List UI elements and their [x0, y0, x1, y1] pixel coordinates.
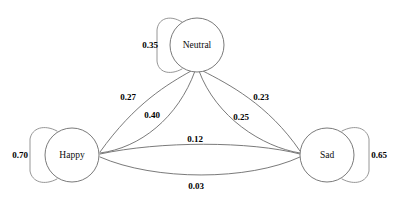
- label-happy-self-weight: 0.70: [12, 150, 28, 160]
- edge-happy-sad-path: [100, 144, 300, 154]
- node-neutral-label: Neutral: [183, 40, 212, 50]
- node-sad-label: Sad: [320, 150, 335, 160]
- transition-edge-group: [100, 71, 300, 175]
- label-happy-neutral-weight: 0.40: [144, 110, 160, 120]
- label-sad-happy-weight: 0.03: [188, 181, 204, 191]
- diagram-canvas: Happy Neutral Sad 0.70 0.35 0.65 0.27 0.…: [0, 0, 397, 200]
- transition-label-group: 0.27 0.40 0.23 0.25 0.12 0.03: [120, 92, 269, 191]
- label-sad-self-weight: 0.65: [371, 150, 387, 160]
- node-happy-label: Happy: [59, 150, 85, 160]
- edge-neutral-sad-path: [203, 71, 300, 151]
- edge-sad-happy-path: [100, 157, 300, 175]
- label-neutral-happy-weight: 0.27: [120, 92, 136, 102]
- node-group: Happy Neutral Sad: [45, 18, 354, 182]
- label-sad-neutral-weight: 0.25: [233, 112, 249, 122]
- markov-chain-diagram: Happy Neutral Sad 0.70 0.35 0.65 0.27 0.…: [0, 0, 397, 200]
- label-neutral-sad-weight: 0.23: [253, 92, 269, 102]
- edge-sad-neutral-path: [199, 71, 300, 153]
- label-happy-sad-weight: 0.12: [187, 134, 203, 144]
- label-neutral-self-weight: 0.35: [142, 40, 158, 50]
